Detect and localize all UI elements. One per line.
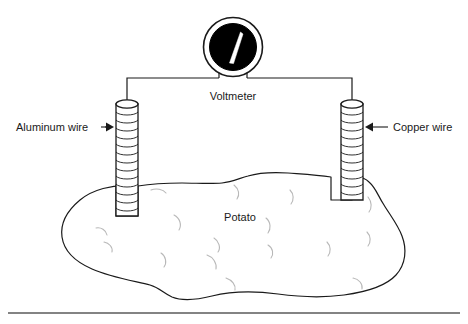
aluminum-wire-top-cap (116, 100, 138, 108)
aluminum-wire-arrowhead (106, 123, 114, 132)
voltmeter[interactable] (204, 18, 263, 77)
aluminum-wire-body (116, 104, 138, 216)
copper-wire-arrowhead (365, 123, 373, 132)
copper-wire-electrode[interactable] (341, 100, 363, 200)
copper-wire-body (341, 104, 363, 200)
wire-bus-right (247, 78, 352, 101)
copper-wire-callout: Copper wire (365, 121, 452, 133)
potato-label: Potato (224, 211, 256, 223)
copper-wire-label: Copper wire (393, 121, 452, 133)
wire-bus-left (127, 78, 219, 101)
aluminum-wire-label: Aluminum wire (16, 121, 88, 133)
aluminum-wire-electrode[interactable] (116, 100, 138, 216)
copper-wire-top-cap (341, 100, 363, 108)
aluminum-wire-callout: Aluminum wire (16, 121, 114, 133)
diagram-canvas: Voltmeter (0, 0, 468, 324)
voltmeter-label: Voltmeter (210, 90, 257, 102)
